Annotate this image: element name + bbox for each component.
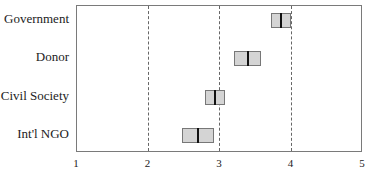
- x-tick-label: 2: [145, 157, 151, 169]
- box-int-l-ngo: [182, 128, 214, 143]
- x-tick-label: 3: [216, 157, 222, 169]
- category-label: Civil Society: [1, 88, 69, 104]
- x-tick-label: 1: [73, 157, 79, 169]
- median-line: [214, 90, 216, 105]
- median-line: [197, 128, 199, 143]
- category-label: Int'l NGO: [17, 126, 69, 142]
- box-government: [271, 13, 291, 28]
- x-tick-label: 4: [288, 157, 294, 169]
- gridline: [219, 6, 220, 151]
- x-tick-label: 5: [359, 157, 365, 169]
- box-civil-society: [205, 90, 225, 105]
- gridline: [148, 6, 149, 151]
- box-donor: [234, 51, 262, 66]
- category-label: Donor: [36, 49, 69, 65]
- median-line: [247, 51, 249, 66]
- plot-area: [76, 5, 362, 152]
- category-label: Government: [4, 11, 69, 27]
- median-line: [280, 13, 282, 28]
